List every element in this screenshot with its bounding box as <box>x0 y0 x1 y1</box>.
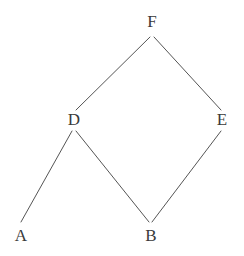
node-label-b: B <box>139 227 163 245</box>
edge-b-to-d <box>76 131 149 222</box>
edge-b-to-e <box>152 131 221 222</box>
node-label-d: D <box>62 111 86 129</box>
node-label-e: E <box>210 111 234 129</box>
edge-a-to-d <box>21 131 72 222</box>
diagram-edges-canvas <box>0 0 244 256</box>
node-label-f: F <box>140 13 164 31</box>
node-label-a: A <box>9 227 33 245</box>
hasse-diagram: F D E A B <box>0 0 244 256</box>
edge-d-to-f <box>76 37 150 110</box>
edge-e-to-f <box>154 37 221 110</box>
